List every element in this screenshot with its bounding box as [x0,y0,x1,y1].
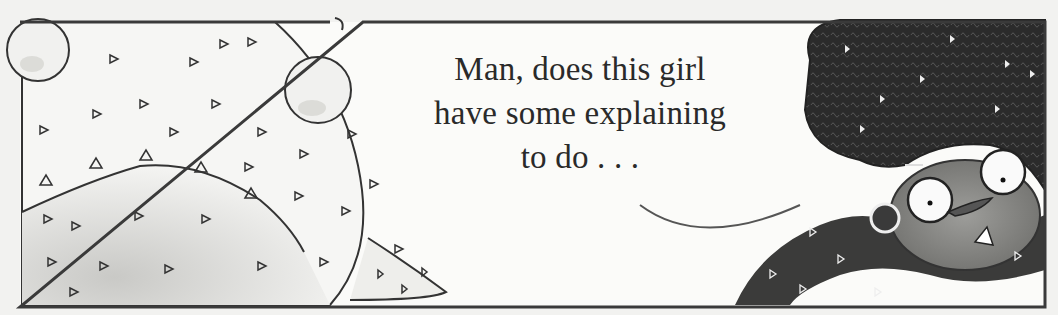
caption-line-1: Man, does this girl [405,47,755,91]
caption-line-2: have some explaining [405,91,755,135]
girl-eye-right [981,150,1025,194]
caption-text: Man, does this girl have some explaining… [405,47,755,179]
caption-line-3: to do . . . [405,135,755,179]
girl-eye-left [908,178,952,222]
earring [871,204,899,232]
creature-eye-left [7,19,69,81]
comic-panel: Man, does this girl have some explaining… [0,0,1058,315]
